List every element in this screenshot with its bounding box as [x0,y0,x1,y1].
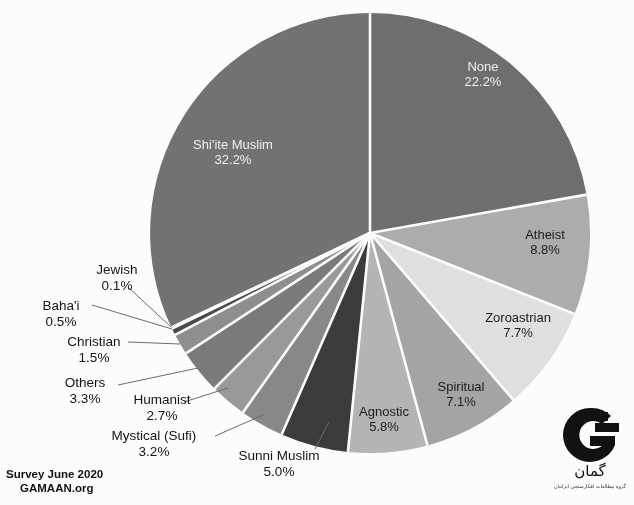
slice-label-spiritual: Spiritual 7.1% [415,380,507,409]
gamaan-logo-mark [551,404,629,466]
slice-label-agnostic: Agnostic 5.8% [340,405,428,434]
slice-label-mystical-sufi-name: Mystical (Sufi) [90,428,218,444]
slice-label-spiritual-name: Spiritual [415,380,507,395]
source-note-line2: GAMAAN.org [6,481,103,495]
slice-label-spiritual-pct: 7.1% [415,395,507,410]
slice-label-jewish: Jewish 0.1% [62,262,172,293]
source-note: Survey June 2020 GAMAAN.org [6,467,103,495]
slice-label-humanist-pct: 2.7% [116,408,208,424]
leader-line-others [118,368,198,385]
slice-label-others-pct: 3.3% [46,391,124,407]
slice-label-jewish-pct: 0.1% [62,278,172,294]
slice-label-christian-name: Christian [48,334,140,350]
slice-label-shiite-muslim: Shi'ite Muslim 32.2% [168,138,298,167]
slice-label-mystical-sufi: Mystical (Sufi) 3.2% [90,428,218,459]
slice-label-bahai-name: Baha'i [20,298,102,314]
slice-label-christian: Christian 1.5% [48,334,140,365]
slice-label-zoroastrian: Zoroastrian 7.7% [457,311,579,340]
pie-chart-figure: None 22.2% Shi'ite Muslim 32.2% Atheist … [0,0,634,505]
slice-label-zoroastrian-pct: 7.7% [457,326,579,341]
slice-label-atheist-pct: 8.8% [498,243,592,258]
slice-label-others-name: Others [46,375,124,391]
slice-label-none-pct: 22.2% [428,75,538,90]
slice-label-none-name: None [428,60,538,75]
slice-label-shiite-muslim-name: Shi'ite Muslim [168,138,298,153]
slice-label-sunni-muslim-name: Sunni Muslim [218,448,340,464]
slice-label-bahai-pct: 0.5% [20,314,102,330]
slice-label-mystical-sufi-pct: 3.2% [90,444,218,460]
leader-line-mystical [215,415,263,436]
slice-label-jewish-name: Jewish [62,262,172,278]
gamaan-logo-persian-subtitle: گروه مطالعات افکارسنجی ایرانیان [551,483,629,489]
slice-label-humanist: Humanist 2.7% [116,392,208,423]
slice-label-humanist-name: Humanist [116,392,208,408]
slice-label-shiite-muslim-pct: 32.2% [168,153,298,168]
slice-label-agnostic-name: Agnostic [340,405,428,420]
slice-label-agnostic-pct: 5.8% [340,420,428,435]
source-note-line1: Survey June 2020 [6,468,103,480]
slice-label-atheist-name: Atheist [498,228,592,243]
slice-label-none: None 22.2% [428,60,538,89]
slice-label-bahai: Baha'i 0.5% [20,298,102,329]
slice-label-atheist: Atheist 8.8% [498,228,592,257]
slice-label-others: Others 3.3% [46,375,124,406]
gamaan-logo: گمان گروه مطالعات افکارسنجی ایرانیان [551,404,629,500]
slice-label-sunni-muslim: Sunni Muslim 5.0% [218,448,340,479]
slice-label-zoroastrian-name: Zoroastrian [457,311,579,326]
slice-label-christian-pct: 1.5% [48,350,140,366]
gamaan-logo-persian-name: گمان [551,464,629,479]
slice-label-sunni-muslim-pct: 5.0% [218,464,340,480]
